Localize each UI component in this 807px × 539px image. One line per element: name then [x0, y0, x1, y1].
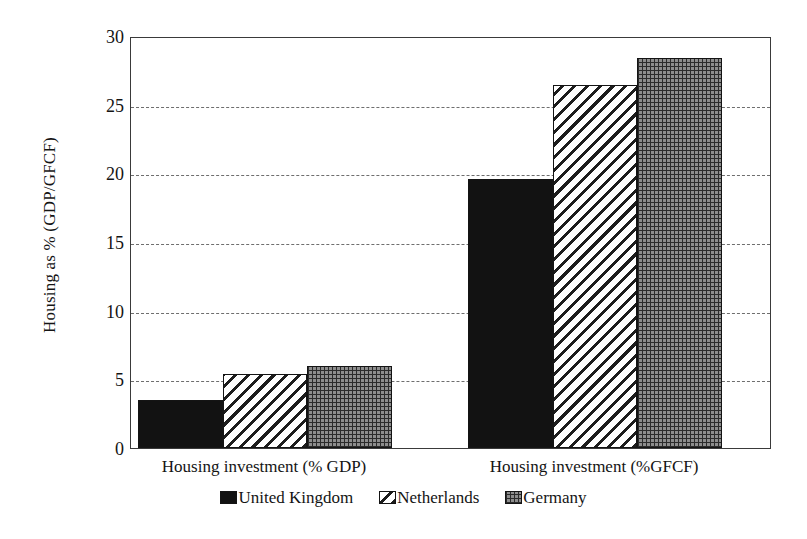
legend-item-netherlands[interactable]: Netherlands — [379, 489, 479, 506]
legend-swatch-icon — [220, 491, 237, 504]
y-axis-tick-label: 5 — [78, 371, 124, 389]
y-axis-title: Housing as % (GDP/GFCF) — [40, 45, 60, 425]
legend-label: United Kingdom — [238, 489, 353, 506]
legend-swatch-icon — [379, 491, 396, 504]
bar-germany-group-2 — [637, 58, 722, 448]
x-axis-category-labels: Housing investment (% GDP)Housing invest… — [130, 457, 771, 487]
y-axis-tick-label: 30 — [78, 28, 124, 46]
bar-united-kingdom-group-2 — [468, 179, 553, 448]
bar-united-kingdom-group-1 — [138, 400, 223, 448]
bar-netherlands-group-1 — [223, 374, 308, 448]
y-axis-tick-label: 0 — [78, 440, 124, 458]
y-axis-tick-label: 20 — [78, 165, 124, 183]
bar-germany-group-1 — [307, 366, 392, 448]
legend-swatch-icon — [505, 491, 522, 504]
chart-legend: United KingdomNetherlandsGermany — [0, 489, 807, 506]
bar-netherlands-group-2 — [553, 85, 638, 448]
legend-item-germany[interactable]: Germany — [505, 489, 586, 506]
y-axis-tick-label: 15 — [78, 234, 124, 252]
x-axis-category-label: Housing investment (% GDP) — [104, 457, 424, 477]
legend-label: Netherlands — [397, 489, 479, 506]
x-axis-category-label: Housing investment (%GFCF) — [434, 457, 754, 477]
plot-area — [130, 37, 771, 449]
legend-label: Germany — [523, 489, 586, 506]
y-axis-tick-label: 10 — [78, 303, 124, 321]
y-axis-tick-label: 25 — [78, 97, 124, 115]
bar-chart-figure: Housing as % (GDP/GFCF) 051015202530 Hou… — [0, 0, 807, 539]
legend-item-united-kingdom[interactable]: United Kingdom — [220, 489, 353, 506]
